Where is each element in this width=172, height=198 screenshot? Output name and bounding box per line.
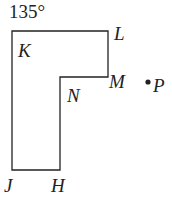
vertex-label-n: N xyxy=(67,86,80,105)
vertex-label-h: H xyxy=(51,176,65,195)
vertex-label-j: J xyxy=(4,176,12,195)
point-label-p: P xyxy=(153,76,165,95)
angle-label: 135° xyxy=(9,2,45,21)
vertex-label-m: M xyxy=(109,72,125,91)
vertex-label-l: L xyxy=(114,24,125,43)
point-p-dot xyxy=(145,79,150,84)
l-shaped-figure xyxy=(0,0,172,198)
vertex-label-k: K xyxy=(18,41,31,60)
